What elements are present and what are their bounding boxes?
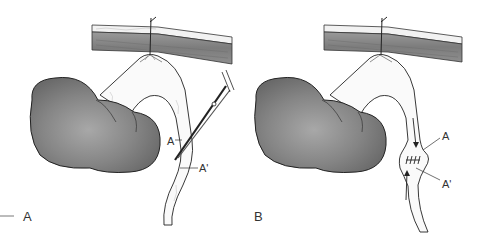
label-point-a-prime-b: A': [442, 178, 451, 190]
panel-a: A A' A: [0, 17, 234, 225]
label-point-a-prime: A': [199, 162, 208, 174]
panel-label-b: B: [254, 209, 263, 224]
figure-canvas: A A' A: [0, 0, 482, 247]
panel-b: A A' B: [254, 17, 462, 232]
label-point-a: A: [167, 135, 175, 147]
panel-label-a: A: [23, 209, 32, 224]
surgical-figure: A A' A: [0, 0, 482, 247]
label-point-a-b: A: [442, 130, 450, 142]
abdominal-wall-b: [324, 25, 462, 62]
